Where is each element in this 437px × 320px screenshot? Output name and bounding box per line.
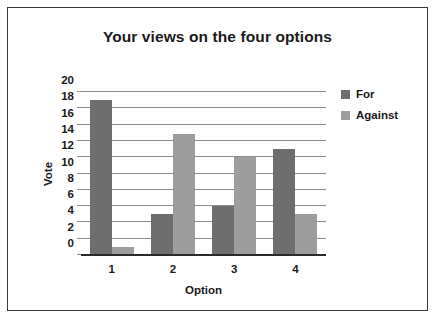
y-tick-label: 20: [61, 74, 74, 86]
legend-label: For: [356, 88, 375, 100]
bar-for[interactable]: [90, 100, 112, 255]
chart-title: Your views on the four options: [8, 28, 427, 46]
legend-item-for[interactable]: For: [341, 88, 398, 100]
y-tick-label: 4: [68, 204, 74, 216]
bar-against[interactable]: [234, 157, 256, 255]
bar-groups: 1234: [81, 92, 326, 255]
bar-group: 3: [204, 92, 265, 255]
legend-swatch-icon: [341, 90, 350, 99]
plot-area: 02468101214161820 1234: [81, 92, 326, 255]
x-tick-label: 3: [204, 263, 265, 275]
bar-against[interactable]: [295, 214, 317, 255]
y-tick-label: 14: [61, 123, 74, 135]
y-tick-label: 0: [68, 237, 74, 249]
legend-swatch-icon: [341, 111, 350, 120]
y-axis-title: Vote: [36, 92, 60, 255]
chart-legend: ForAgainst: [341, 88, 398, 130]
x-axis-title: Option: [81, 284, 326, 296]
legend-item-against[interactable]: Against: [341, 109, 398, 121]
bar-for[interactable]: [273, 149, 295, 255]
y-tick-label: 18: [61, 90, 74, 102]
y-axis-title-label: Vote: [42, 161, 54, 185]
x-axis-line: [81, 254, 326, 256]
y-tick-label: 12: [61, 139, 74, 151]
bar-group: 1: [81, 92, 142, 255]
x-tick-label: 2: [142, 263, 203, 275]
y-tick-label: 16: [61, 107, 74, 119]
chart-frame: Your views on the four options Vote 0246…: [7, 7, 428, 311]
y-tick-label: 10: [61, 156, 74, 168]
y-tick-label: 8: [68, 172, 74, 184]
legend-label: Against: [356, 109, 398, 121]
y-tick-label: 6: [68, 188, 74, 200]
bar-group: 2: [142, 92, 203, 255]
y-tick-label: 2: [68, 221, 74, 233]
x-tick-label: 1: [81, 263, 142, 275]
bar-against[interactable]: [173, 134, 195, 255]
bar-for[interactable]: [151, 214, 173, 255]
bar-group: 4: [265, 92, 326, 255]
bar-for[interactable]: [212, 206, 234, 255]
x-tick-label: 4: [265, 263, 326, 275]
